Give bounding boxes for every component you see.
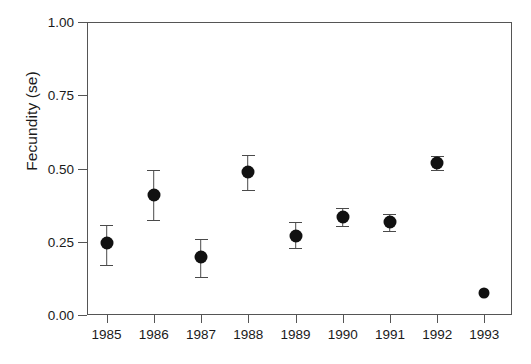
x-axis-tick-mark bbox=[154, 315, 155, 323]
x-axis-tick-mark bbox=[107, 315, 108, 323]
x-axis-tick-mark bbox=[484, 315, 485, 323]
y-axis-tick-mark bbox=[78, 315, 87, 316]
error-bar-cap bbox=[336, 208, 349, 209]
data-point-marker bbox=[336, 210, 349, 223]
y-axis-tick-label: 0.75 bbox=[28, 88, 74, 103]
y-axis-tick-mark bbox=[78, 169, 87, 170]
y-axis-tick-mark bbox=[78, 95, 87, 96]
fecundity-scatter-chart: Fecundity (se) 0.000.250.500.751.00 1985… bbox=[0, 0, 531, 364]
data-point-marker bbox=[147, 188, 160, 201]
data-point-marker bbox=[383, 216, 396, 229]
error-bar-cap bbox=[100, 265, 113, 266]
x-axis-tick-mark bbox=[248, 315, 249, 323]
error-bar-cap bbox=[195, 239, 208, 240]
error-bar-cap bbox=[195, 277, 208, 278]
error-bar-cap bbox=[147, 170, 160, 171]
error-bar-cap bbox=[242, 190, 255, 191]
data-point-marker bbox=[195, 250, 208, 263]
y-axis-tick-mark bbox=[78, 242, 87, 243]
error-bar-cap bbox=[289, 222, 302, 223]
error-bar-cap bbox=[147, 220, 160, 221]
data-point-marker bbox=[289, 229, 302, 242]
error-bar-cap bbox=[383, 231, 396, 232]
data-point-marker bbox=[100, 237, 113, 250]
error-bar-cap bbox=[100, 225, 113, 226]
y-axis-tick-mark bbox=[78, 22, 87, 23]
y-axis-tick-label: 0.00 bbox=[28, 308, 74, 323]
error-bar-cap bbox=[242, 155, 255, 156]
x-axis-tick-mark bbox=[390, 315, 391, 323]
data-point-marker bbox=[242, 166, 255, 179]
y-axis-tick-label: 1.00 bbox=[28, 15, 74, 30]
y-axis-tick-label: 0.50 bbox=[28, 161, 74, 176]
x-axis-tick-mark bbox=[296, 315, 297, 323]
error-bar-cap bbox=[431, 170, 444, 171]
data-point-marker bbox=[431, 156, 444, 169]
x-axis-tick-mark bbox=[201, 315, 202, 323]
x-axis-tick-mark bbox=[343, 315, 344, 323]
error-bar-cap bbox=[336, 226, 349, 227]
data-point-marker bbox=[479, 288, 490, 299]
x-axis-tick-mark bbox=[437, 315, 438, 323]
error-bar-cap bbox=[289, 248, 302, 249]
x-axis-tick-label: 1993 bbox=[454, 327, 514, 342]
y-axis-tick-label: 0.25 bbox=[28, 234, 74, 249]
plot-area bbox=[87, 22, 512, 315]
y-axis-title: Fecundity (se) bbox=[23, 31, 41, 211]
